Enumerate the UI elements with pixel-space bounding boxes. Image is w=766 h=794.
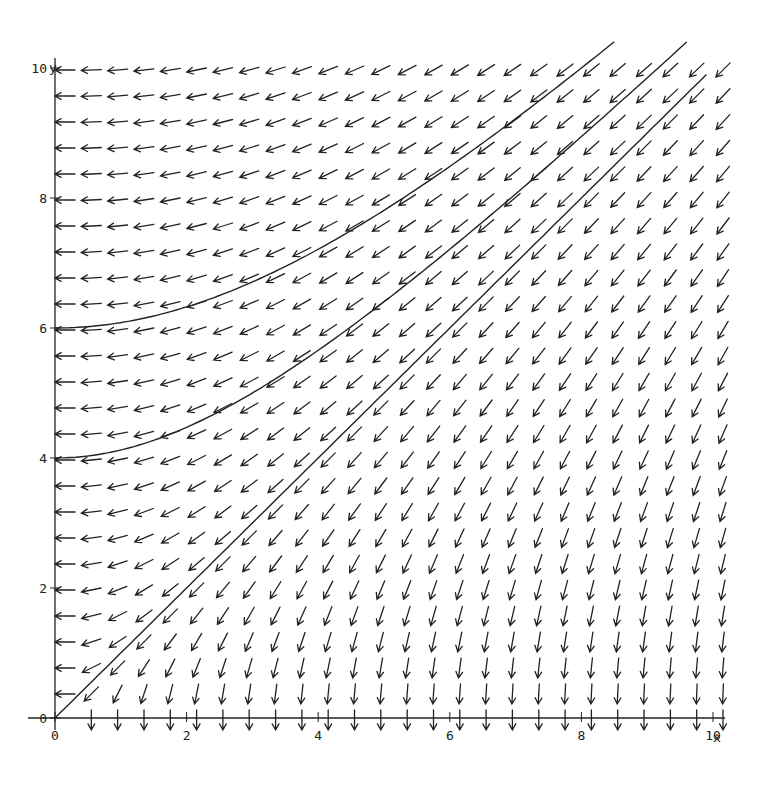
direction-arrow-icon: [350, 555, 360, 573]
direction-arrow-icon: [587, 554, 594, 573]
direction-arrow-icon: [135, 483, 154, 491]
direction-arrow-icon: [719, 606, 726, 626]
direction-arrow-icon: [719, 528, 726, 547]
direction-arrow-icon: [586, 374, 597, 391]
direction-arrow-icon: [187, 249, 206, 256]
direction-arrow-icon: [403, 632, 410, 651]
y-tick-label: 2: [39, 581, 47, 596]
direction-arrow-icon: [613, 451, 622, 469]
direction-arrow-icon: [187, 146, 207, 153]
direction-arrow-icon: [588, 710, 595, 730]
direction-arrow-icon: [294, 453, 309, 466]
direction-arrow-icon: [82, 639, 101, 647]
direction-arrow-icon: [612, 348, 623, 365]
direction-arrow-icon: [532, 245, 546, 259]
direction-arrow-icon: [324, 581, 333, 599]
direction-arrow-icon: [640, 477, 648, 496]
direction-arrow-icon: [55, 535, 75, 542]
direction-arrow-icon: [345, 66, 363, 75]
direction-arrow-icon: [161, 276, 181, 283]
direction-arrow-icon: [482, 606, 489, 625]
direction-arrow-icon: [480, 374, 493, 390]
direction-arrow-icon: [346, 221, 363, 231]
direction-arrow-icon: [376, 581, 384, 599]
direction-arrow-icon: [693, 554, 700, 573]
direction-arrow-icon: [81, 457, 101, 464]
direction-arrow-icon: [692, 503, 700, 522]
direction-arrow-icon: [81, 93, 101, 100]
direction-arrow-icon: [613, 503, 621, 522]
direction-arrow-icon: [293, 93, 312, 101]
direction-arrow-icon: [561, 529, 569, 548]
direction-arrow-icon: [321, 402, 336, 415]
direction-arrow-icon: [505, 168, 521, 181]
direction-arrow-icon: [55, 483, 75, 490]
direction-arrow-icon: [640, 554, 647, 573]
direction-arrow-icon: [639, 348, 650, 365]
direction-arrow-icon: [161, 171, 181, 178]
direction-arrow-icon: [240, 377, 258, 387]
y-tick-label: 4: [39, 451, 47, 466]
direction-arrow-icon: [294, 376, 310, 387]
direction-arrow-icon: [161, 250, 181, 257]
direction-arrow-icon: [666, 451, 675, 469]
direction-arrow-icon: [376, 607, 384, 626]
direction-arrow-icon: [430, 684, 437, 704]
direction-arrow-icon: [557, 90, 573, 102]
direction-arrow-icon: [666, 425, 675, 443]
direction-arrow-icon: [294, 402, 310, 414]
direction-arrow-icon: [161, 482, 179, 491]
direction-arrow-icon: [81, 379, 101, 386]
direction-arrow-icon: [690, 192, 703, 207]
direction-arrow-icon: [428, 478, 439, 495]
direction-arrow-icon: [504, 64, 521, 75]
direction-arrow-icon: [403, 658, 410, 678]
direction-arrow-icon: [192, 633, 202, 650]
direction-arrow-icon: [266, 248, 284, 257]
direction-arrow-icon: [320, 273, 337, 283]
direction-arrow-icon: [400, 324, 415, 337]
direction-arrow-icon: [187, 353, 206, 361]
direction-arrow-icon: [716, 89, 730, 103]
direction-arrow-icon: [375, 478, 387, 494]
direction-arrow-icon: [82, 664, 100, 673]
direction-arrow-icon: [214, 326, 233, 334]
direction-arrow-icon: [717, 270, 728, 287]
direction-arrow-icon: [585, 270, 598, 285]
direction-arrow-icon: [55, 613, 75, 620]
direction-arrow-icon: [613, 554, 620, 573]
direction-arrow-icon: [507, 400, 519, 416]
direction-arrow-icon: [219, 684, 226, 704]
direction-arrow-icon: [561, 503, 570, 521]
direction-arrow-icon: [719, 632, 726, 652]
direction-arrow-icon: [666, 554, 673, 573]
direction-arrow-icon: [55, 379, 75, 386]
direction-arrow-icon: [614, 710, 621, 730]
direction-arrow-icon: [266, 170, 285, 178]
direction-arrow-icon: [374, 401, 388, 415]
direction-arrow-icon: [346, 118, 364, 127]
direction-arrow-icon: [55, 431, 75, 438]
direction-arrow-icon: [425, 194, 441, 205]
direction-arrow-icon: [187, 198, 206, 205]
plot-area: 02468100246810 x y: [0, 0, 766, 794]
direction-arrow-icon: [266, 222, 285, 231]
direction-arrow-icon: [348, 478, 361, 493]
direction-arrow-icon: [481, 452, 492, 469]
direction-arrow-icon: [587, 606, 594, 626]
direction-arrow-icon: [81, 353, 101, 360]
direction-arrow-icon: [531, 193, 546, 206]
direction-arrow-icon: [531, 116, 547, 128]
direction-arrow-icon: [245, 633, 254, 651]
direction-arrow-icon: [319, 66, 338, 74]
direction-arrow-icon: [610, 115, 625, 128]
x-tick-label: 6: [446, 728, 454, 743]
direction-arrow-icon: [187, 327, 206, 335]
direction-arrow-icon: [611, 193, 625, 207]
direction-arrow-icon: [692, 451, 700, 469]
direction-arrow-icon: [296, 530, 308, 546]
direction-arrow-icon: [109, 637, 126, 648]
direction-arrow-icon: [534, 451, 544, 468]
direction-arrow-icon: [666, 477, 674, 496]
direction-arrow-icon: [667, 658, 674, 678]
